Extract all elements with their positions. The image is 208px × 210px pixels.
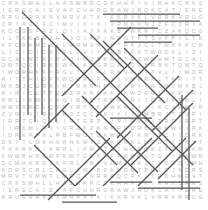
letter-cell: Q	[61, 97, 68, 104]
letter-cell: T	[14, 76, 21, 83]
letter-cell: R	[34, 194, 41, 201]
letter-cell: C	[184, 160, 191, 167]
letter-cell: E	[7, 187, 14, 194]
letter-cell: Q	[150, 97, 157, 104]
letter-cell: I	[150, 132, 157, 139]
letter-cell: I	[41, 146, 48, 153]
letter-cell: R	[27, 194, 34, 201]
letter-cell: F	[163, 167, 170, 174]
letter-cell: R	[88, 146, 95, 153]
letter-cell: L	[143, 194, 150, 201]
letter-cell: Z	[68, 90, 75, 97]
letter-cell: K	[116, 69, 123, 76]
letter-cell: B	[150, 111, 157, 118]
letter-cell: W	[41, 173, 48, 180]
letter-cell: T	[143, 69, 150, 76]
letter-cell: K	[20, 132, 27, 139]
letter-cell: Z	[190, 49, 197, 56]
letter-cell: B	[116, 49, 123, 56]
letter-cell: K	[109, 0, 116, 7]
letter-cell: J	[20, 83, 27, 90]
letter-cell: Z	[0, 111, 7, 118]
letter-cell: G	[95, 62, 102, 69]
letter-cell: C	[0, 180, 7, 187]
letter-cell: R	[190, 111, 197, 118]
letter-cell: I	[41, 187, 48, 194]
letter-cell: N	[102, 125, 109, 132]
letter-cell: K	[48, 146, 55, 153]
letter-cell: R	[82, 56, 89, 63]
letter-cell: I	[190, 21, 197, 28]
letter-cell: Q	[41, 118, 48, 125]
letter-cell: R	[0, 90, 7, 97]
letter-cell: A	[163, 7, 170, 14]
letter-cell: R	[41, 28, 48, 35]
letter-cell: D	[177, 160, 184, 167]
letter-cell: R	[7, 180, 14, 187]
letter-cell: K	[82, 14, 89, 21]
letter-cell: M	[88, 62, 95, 69]
letter-cell: I	[54, 21, 61, 28]
letter-cell: X	[95, 21, 102, 28]
letter-cell: O	[68, 111, 75, 118]
letter-cell: V	[190, 104, 197, 111]
letter-cell: A	[116, 187, 123, 194]
letter-cell: J	[129, 7, 136, 14]
letter-cell: Q	[61, 28, 68, 35]
letter-cell: K	[163, 62, 170, 69]
letter-cell: I	[75, 21, 82, 28]
letter-cell: R	[102, 173, 109, 180]
letter-cell: Q	[177, 62, 184, 69]
letter-cell: K	[109, 139, 116, 146]
letter-cell: U	[190, 14, 197, 21]
letter-cell: I	[156, 167, 163, 174]
letter-row: IERECAIEVAFCUHRGRAWJROKCATIERE	[0, 187, 208, 194]
letter-cell: K	[95, 104, 102, 111]
letter-cell: R	[177, 97, 184, 104]
letter-cell: H	[34, 0, 41, 7]
letter-cell: R	[136, 187, 143, 194]
letter-cell: P	[170, 35, 177, 42]
letter-row: MRVTVMWTLMRQINRRRQCFKITRKHMRVT	[0, 173, 208, 180]
letter-cell: R	[41, 111, 48, 118]
letter-cell: T	[150, 69, 157, 76]
letter-cell: M	[177, 104, 184, 111]
letter-cell: G	[197, 28, 204, 35]
letter-cell: R	[54, 90, 61, 97]
letter-cell: V	[75, 194, 82, 201]
letter-cell: R	[156, 180, 163, 187]
letter-cell: T	[41, 90, 48, 97]
letter-cell: K	[129, 139, 136, 146]
letter-cell: L	[122, 160, 129, 167]
letter-cell: Y	[14, 139, 21, 146]
letter-cell: C	[14, 42, 21, 49]
letter-cell: R	[190, 90, 197, 97]
letter-cell: R	[20, 104, 27, 111]
letter-cell: H	[156, 56, 163, 63]
letter-cell: S	[197, 167, 204, 174]
letter-cell: A	[20, 21, 27, 28]
letter-cell: L	[156, 146, 163, 153]
letter-cell: T	[102, 146, 109, 153]
letter-cell: G	[82, 118, 89, 125]
letter-cell: H	[197, 160, 204, 167]
letter-cell: R	[54, 146, 61, 153]
letter-cell: T	[170, 111, 177, 118]
letter-cell: Q	[7, 28, 14, 35]
letter-cell: K	[136, 173, 143, 180]
letter-cell: G	[20, 28, 27, 35]
letter-cell: R	[75, 83, 82, 90]
letter-cell: I	[170, 139, 177, 146]
letter-cell: R	[109, 173, 116, 180]
letter-cell: G	[197, 194, 204, 201]
letter-cell: C	[177, 0, 184, 7]
letter-row: IIRKMLNJIVRZKZKNKRRDRBRKKWIIRK	[0, 125, 208, 132]
letter-cell: K	[102, 153, 109, 160]
letter-cell: R	[61, 111, 68, 118]
letter-cell: L	[143, 14, 150, 21]
letter-cell: F	[48, 76, 55, 83]
letter-cell: I	[136, 180, 143, 187]
letter-cell: I	[143, 104, 150, 111]
letter-cell: Z	[27, 21, 34, 28]
letter-cell: I	[41, 97, 48, 104]
